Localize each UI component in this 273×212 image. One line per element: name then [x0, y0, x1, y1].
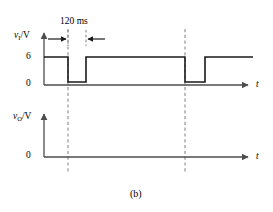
marker-line-group — [68, 29, 185, 172]
input-y-tick-label-6: 6 — [26, 52, 31, 62]
input-y-axis-label: vI/V — [14, 31, 30, 41]
dimension-arrows — [48, 30, 105, 46]
input-waveform-trace — [44, 57, 253, 82]
input-y-axis-label-unit: /V — [20, 30, 30, 40]
output-y-tick-label-0: 0 — [26, 151, 31, 161]
waveform-diagram — [0, 0, 273, 212]
plot-output-voltage — [44, 114, 248, 157]
plot-input-voltage — [44, 33, 253, 85]
input-y-tick-label-0: 0 — [26, 79, 31, 89]
input-x-axis-label: t — [256, 80, 259, 90]
dimension-label-120ms: 120 ms — [60, 17, 88, 27]
figure-caption: (b) — [130, 189, 142, 199]
output-y-axis-label-unit: /V — [22, 111, 32, 121]
output-y-axis-label: vO/V — [13, 112, 31, 122]
output-x-axis-label: t — [256, 152, 259, 162]
figure-container: vI/V 6 0 t vO/V 0 t 120 ms (b) — [0, 0, 273, 212]
